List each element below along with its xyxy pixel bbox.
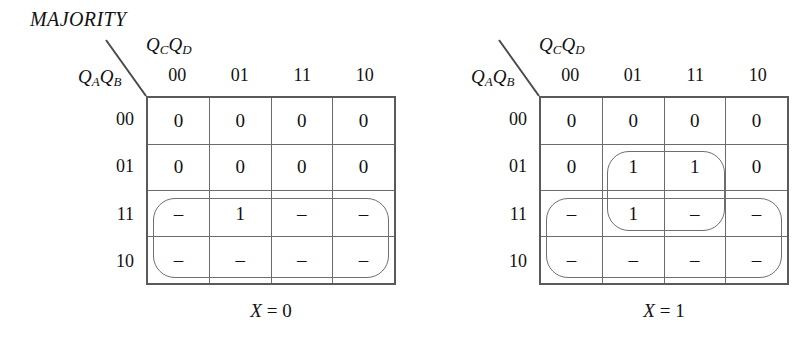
kmap-cell: 0 bbox=[726, 144, 788, 190]
table-row: 0 0 0 0 bbox=[148, 144, 394, 190]
figure-title: MAJORITY bbox=[30, 8, 127, 31]
row-header: 10 bbox=[100, 238, 140, 285]
kmap-cell: – bbox=[271, 237, 333, 283]
kmap-x1-block: QCQD QAQB 00 01 11 10 00 01 11 10 0 0 0 … bbox=[393, 0, 793, 343]
caption-value: = 0 bbox=[267, 300, 292, 321]
table-row: 0 1 1 0 bbox=[541, 144, 787, 190]
kmap-cell: 0 bbox=[726, 98, 788, 144]
kmap-cell: – bbox=[664, 191, 726, 237]
kmap-cell: 0 bbox=[541, 144, 603, 190]
column-header: 10 bbox=[727, 62, 790, 88]
column-header: 00 bbox=[539, 62, 602, 88]
row-header: 01 bbox=[493, 143, 533, 190]
kmap-cell: 0 bbox=[271, 144, 333, 190]
kmap-cell: – bbox=[603, 237, 665, 283]
column-header: 10 bbox=[334, 62, 397, 88]
table-row: 0 0 0 0 bbox=[541, 98, 787, 144]
kmap-cell: 0 bbox=[210, 144, 272, 190]
kmap-cell: 0 bbox=[333, 144, 395, 190]
kmap-cell: – bbox=[664, 237, 726, 283]
kmap-cell: – bbox=[541, 237, 603, 283]
kmap-cell: 1 bbox=[664, 144, 726, 190]
row-header: 00 bbox=[493, 96, 533, 143]
column-header: 01 bbox=[209, 62, 272, 88]
caption-value: = 1 bbox=[660, 300, 685, 321]
kmap-cell: – bbox=[726, 237, 788, 283]
kmap-x1-column-headers: 00 01 11 10 bbox=[539, 62, 789, 88]
kmap-x1-grid: 0 0 0 0 0 1 1 0 – 1 – – – bbox=[539, 96, 789, 285]
kmap-cell: – bbox=[333, 191, 395, 237]
kmap-x0-column-headers: 00 01 11 10 bbox=[146, 62, 396, 88]
kmap-x0-table: 0 0 0 0 0 0 0 0 – 1 – – – bbox=[148, 98, 394, 283]
kmap-x1-row-headers: 00 01 11 10 bbox=[493, 96, 533, 285]
karnaugh-map-figure: MAJORITY QCQD QAQB 00 01 11 10 00 01 11 … bbox=[0, 0, 793, 343]
column-header: 00 bbox=[146, 62, 209, 88]
column-header: 11 bbox=[271, 62, 334, 88]
row-header: 11 bbox=[493, 191, 533, 238]
kmap-cell: – bbox=[726, 191, 788, 237]
caption-variable: X bbox=[250, 300, 262, 321]
row-header: 01 bbox=[100, 143, 140, 190]
kmap-cell: – bbox=[541, 191, 603, 237]
kmap-cell: 0 bbox=[148, 98, 210, 144]
kmap-cell: 0 bbox=[664, 98, 726, 144]
table-row: 0 0 0 0 bbox=[148, 98, 394, 144]
kmap-cell: 0 bbox=[541, 98, 603, 144]
kmap-cell: 0 bbox=[148, 144, 210, 190]
column-header: 11 bbox=[664, 62, 727, 88]
kmap-x1-caption: X = 1 bbox=[539, 300, 789, 322]
column-variable-label: QCQD bbox=[146, 34, 192, 58]
kmap-x0-grid: 0 0 0 0 0 0 0 0 – 1 – – – bbox=[146, 96, 396, 285]
kmap-cell: 0 bbox=[271, 98, 333, 144]
column-variable-label: QCQD bbox=[539, 34, 585, 58]
kmap-cell: – bbox=[148, 237, 210, 283]
kmap-cell: 1 bbox=[603, 144, 665, 190]
kmap-cell: 0 bbox=[603, 98, 665, 144]
column-header: 01 bbox=[602, 62, 665, 88]
table-row: – – – – bbox=[148, 237, 394, 283]
kmap-cell: 0 bbox=[210, 98, 272, 144]
kmap-cell: – bbox=[210, 237, 272, 283]
kmap-x0-block: MAJORITY QCQD QAQB 00 01 11 10 00 01 11 … bbox=[0, 0, 400, 343]
kmap-x0-caption: X = 0 bbox=[146, 300, 396, 322]
kmap-cell: – bbox=[148, 191, 210, 237]
row-variable-label: QAQB bbox=[471, 66, 514, 90]
kmap-cell: 0 bbox=[333, 98, 395, 144]
caption-variable: X bbox=[643, 300, 655, 321]
row-header: 10 bbox=[493, 238, 533, 285]
table-row: – – – – bbox=[541, 237, 787, 283]
table-row: – 1 – – bbox=[148, 191, 394, 237]
kmap-x1-table: 0 0 0 0 0 1 1 0 – 1 – – – bbox=[541, 98, 787, 283]
row-header: 11 bbox=[100, 191, 140, 238]
kmap-cell: – bbox=[333, 237, 395, 283]
kmap-x0-row-headers: 00 01 11 10 bbox=[100, 96, 140, 285]
kmap-cell: 1 bbox=[210, 191, 272, 237]
table-row: – 1 – – bbox=[541, 191, 787, 237]
row-header: 00 bbox=[100, 96, 140, 143]
kmap-cell: 1 bbox=[603, 191, 665, 237]
kmap-cell: – bbox=[271, 191, 333, 237]
row-variable-label: QAQB bbox=[78, 66, 121, 90]
